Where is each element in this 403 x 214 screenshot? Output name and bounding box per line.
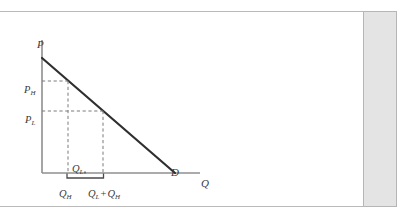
x-axis-label: Q	[201, 178, 209, 189]
price-low-label: PL	[25, 115, 35, 126]
quantity-sum-tick-label: QL+QH	[88, 189, 120, 200]
quantity-high-subscript: H	[67, 193, 72, 200]
quantity-high-tick-label: QH	[59, 189, 72, 200]
right-side-panel	[363, 11, 397, 207]
price-low-subscript: L	[31, 119, 35, 126]
quantity-low-base: Q	[72, 163, 80, 174]
quantity-high-base: Q	[59, 188, 67, 199]
demand-curve-line	[42, 58, 175, 173]
quantity-low-subscript: L	[80, 168, 84, 175]
demand-curve-chart	[0, 12, 364, 208]
quantity-sum-base-2: Q	[107, 188, 115, 199]
screenshot-root: P Q D PH PL QL QH QL+QH	[0, 0, 403, 214]
quantity-sum-base-1: Q	[88, 188, 96, 199]
figure-panel: P Q D PH PL QL QH QL+QH	[0, 11, 364, 207]
quantity-sum-subscript-2: H	[115, 193, 120, 200]
quantity-low-bracket-label: QL	[72, 164, 83, 175]
demand-curve-label: D	[171, 167, 179, 178]
price-high-subscript: H	[30, 89, 35, 96]
price-high-label: PH	[24, 85, 35, 96]
y-axis-label: P	[37, 39, 44, 50]
